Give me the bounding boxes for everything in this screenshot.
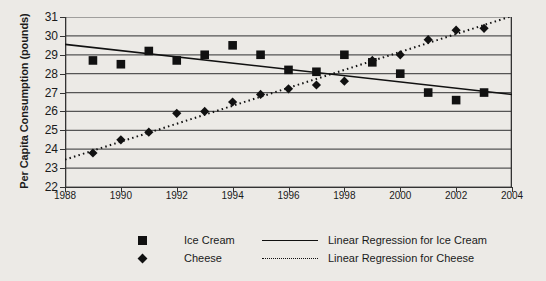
data-point-ice-cream — [228, 41, 237, 50]
legend-label-ice-cream: Ice Cream — [184, 234, 262, 246]
x-tick-mark — [512, 187, 513, 192]
data-point-cheese — [144, 128, 153, 137]
x-axis-line — [65, 187, 512, 188]
data-point-ice-cream — [312, 67, 321, 76]
plot-svg — [65, 17, 512, 187]
legend-label-cheese: Cheese — [184, 252, 262, 264]
legend-marker-square — [138, 236, 184, 245]
legend-label-regression-ice-cream: Linear Regression for Ice Cream — [328, 234, 487, 246]
legend-marker-diamond — [138, 254, 184, 263]
data-point-ice-cream — [172, 56, 181, 65]
y-tick-label: 29 — [45, 48, 58, 62]
data-point-cheese — [256, 90, 265, 99]
legend-row-ice-cream: Ice Cream Linear Regression for Ice Crea… — [138, 234, 487, 246]
data-point-ice-cream — [284, 66, 293, 75]
y-tick-label: 26 — [45, 104, 58, 118]
data-point-ice-cream — [89, 56, 98, 65]
y-tick-label: 31 — [45, 10, 58, 24]
data-point-ice-cream — [256, 50, 265, 59]
data-point-cheese — [200, 107, 209, 116]
y-tick-label: 25 — [45, 123, 58, 137]
data-point-ice-cream — [200, 50, 209, 59]
data-point-ice-cream — [145, 47, 154, 56]
legend-row-cheese: Cheese Linear Regression for Cheese — [138, 252, 474, 264]
y-axis-tick-labels: 31302928272625242322 — [26, 0, 58, 200]
y-tick-label: 24 — [45, 142, 58, 156]
y-tick-label: 27 — [45, 86, 58, 100]
y-tick-label: 28 — [45, 67, 58, 81]
data-point-cheese — [172, 109, 181, 118]
data-point-ice-cream — [396, 69, 405, 78]
data-point-ice-cream — [340, 50, 349, 59]
data-point-ice-cream — [452, 96, 461, 105]
data-point-cheese — [116, 135, 125, 144]
legend-marker-solid-line — [262, 240, 328, 241]
data-point-cheese — [396, 50, 405, 59]
data-point-cheese — [312, 80, 321, 89]
data-point-ice-cream — [117, 60, 126, 69]
legend-label-regression-cheese: Linear Regression for Cheese — [328, 252, 474, 264]
data-point-ice-cream — [424, 88, 433, 97]
y-tick-label: 30 — [45, 29, 58, 43]
plot-area — [65, 17, 512, 187]
legend-marker-dotted-line — [262, 258, 328, 259]
chart-container: Per Capita Consumption (pounds) 31302928… — [0, 0, 546, 281]
data-point-cheese — [340, 77, 349, 86]
data-point-ice-cream — [480, 88, 489, 97]
data-point-cheese — [479, 24, 488, 33]
y-tick-label: 23 — [45, 161, 58, 175]
